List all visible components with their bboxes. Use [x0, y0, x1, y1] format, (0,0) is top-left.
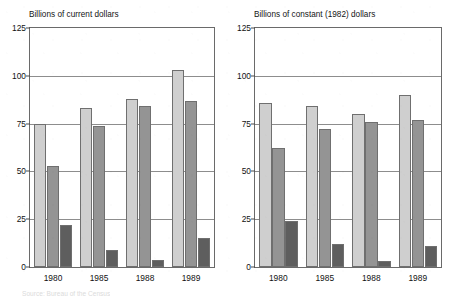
- y-axis-tick-mark: [251, 267, 255, 268]
- x-axis-tick-label: 1989: [182, 273, 201, 283]
- y-axis-tick-label: 75: [242, 119, 251, 129]
- y-axis-tick-label: 75: [17, 119, 26, 129]
- bar: [319, 129, 332, 267]
- y-axis-tick-label: 100: [237, 71, 251, 81]
- page-title: Billions of constant (1982) dollars: [254, 10, 375, 19]
- bar: [93, 126, 106, 267]
- y-axis-tick-mark: [26, 28, 30, 29]
- bar: [152, 260, 165, 267]
- x-axis-tick-label: 1988: [362, 273, 381, 283]
- y-axis-tick-label: 25: [17, 214, 26, 224]
- bar: [306, 106, 319, 267]
- y-axis-tick-mark: [26, 75, 30, 76]
- y-axis-tick-mark: [251, 75, 255, 76]
- x-axis-tick-label: 1988: [136, 273, 155, 283]
- bar: [259, 103, 272, 267]
- y-axis-tick-mark: [251, 28, 255, 29]
- bar-group: 1985: [80, 28, 119, 267]
- chart-panel-constant-dollars: Billions of constant (1982) dollars 0255…: [225, 0, 449, 296]
- y-axis-tick-label: 100: [12, 71, 26, 81]
- bar: [126, 99, 139, 267]
- bar-group: 1988: [126, 28, 165, 267]
- y-axis-tick-label: 125: [237, 23, 251, 33]
- page-title: Billions of current dollars: [29, 10, 119, 19]
- y-axis-tick-label: 50: [242, 166, 251, 176]
- y-axis-tick-mark: [251, 123, 255, 124]
- plot-area-constant-dollars: 02550751001251980198519881989: [254, 27, 442, 268]
- bar-group: 1988: [352, 28, 391, 267]
- chart-panel-current-dollars: Billions of current dollars 025507510012…: [0, 0, 224, 296]
- x-axis-tick-label: 1980: [44, 273, 63, 283]
- y-axis-tick-label: 125: [12, 23, 26, 33]
- y-axis-tick-mark: [26, 123, 30, 124]
- source-note: Source: Bureau of the Census: [22, 290, 110, 296]
- bar: [47, 166, 60, 267]
- bar: [106, 250, 119, 267]
- x-axis-tick-label: 1985: [315, 273, 334, 283]
- y-axis-tick-label: 0: [21, 262, 26, 272]
- y-axis-tick-label: 50: [17, 166, 26, 176]
- y-axis-tick-label: 0: [246, 262, 251, 272]
- bar-group: 1989: [399, 28, 438, 267]
- bar-group: 1980: [34, 28, 73, 267]
- x-axis-tick-label: 1989: [408, 273, 427, 283]
- bar: [80, 108, 93, 267]
- figure-two-panel-bar-charts: Billions of current dollars 025507510012…: [0, 0, 449, 296]
- bar: [285, 221, 298, 267]
- bar: [412, 120, 425, 267]
- y-axis-tick-label: 25: [242, 214, 251, 224]
- bar-group: 1980: [259, 28, 298, 267]
- bar: [378, 261, 391, 267]
- bar: [332, 244, 345, 267]
- x-axis-tick-label: 1985: [90, 273, 109, 283]
- bar: [139, 106, 152, 267]
- bar: [352, 114, 365, 267]
- bar: [198, 238, 211, 267]
- bar: [60, 225, 73, 267]
- plot-area-current-dollars: 02550751001251980198519881989: [29, 27, 215, 268]
- bar: [172, 70, 185, 267]
- y-axis-tick-mark: [26, 267, 30, 268]
- y-axis-tick-mark: [26, 171, 30, 172]
- bar-group: 1985: [306, 28, 345, 267]
- y-axis-tick-mark: [251, 219, 255, 220]
- x-axis-tick-label: 1980: [269, 273, 288, 283]
- bar: [185, 101, 198, 267]
- bar: [34, 124, 47, 267]
- bar-group: 1989: [172, 28, 211, 267]
- y-axis-tick-mark: [26, 219, 30, 220]
- bar: [365, 122, 378, 267]
- bar: [425, 246, 438, 267]
- bar: [399, 95, 412, 267]
- y-axis-tick-mark: [251, 171, 255, 172]
- bar: [272, 148, 285, 267]
